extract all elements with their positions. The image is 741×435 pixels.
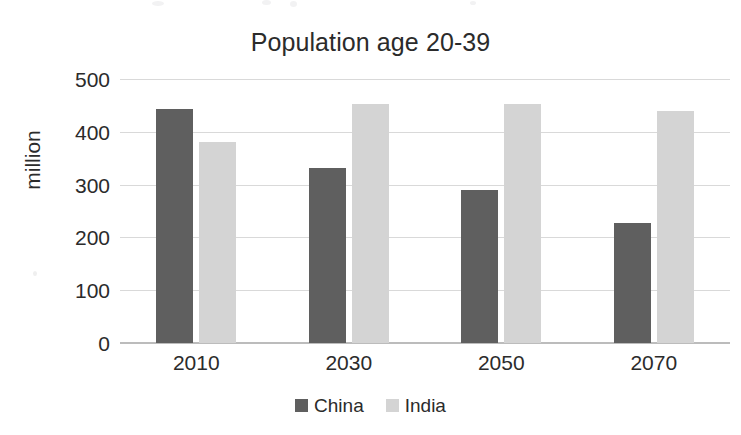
y-tick-label-200: 200 — [46, 227, 110, 248]
x-axis-tick-labels: 2010203020502070 — [120, 352, 730, 382]
legend-swatch-china-icon — [295, 399, 308, 412]
bar-india-2030 — [352, 104, 389, 343]
bar-china-2030 — [309, 168, 346, 343]
x-tick-label-2050: 2050 — [425, 352, 578, 373]
x-tick-label-2010: 2010 — [120, 352, 273, 373]
scan-artifact — [262, 0, 271, 5]
y-tick-label-400: 400 — [46, 122, 110, 143]
gridline-400 — [120, 132, 730, 133]
scan-artifact — [470, 1, 476, 5]
chart-title: Population age 20-39 — [0, 28, 741, 57]
x-tick-label-2070: 2070 — [578, 352, 731, 373]
bar-india-2050 — [504, 104, 541, 343]
y-axis-title: million — [21, 100, 45, 220]
bar-india-2010 — [199, 142, 236, 343]
y-tick-label-300: 300 — [46, 175, 110, 196]
x-tick-label-2030: 2030 — [273, 352, 426, 373]
y-tick-label-0: 0 — [46, 333, 110, 354]
plot-area — [120, 79, 730, 343]
bar-china-2050 — [461, 190, 498, 343]
legend-item-china[interactable]: China — [295, 396, 364, 415]
bar-china-2070 — [614, 223, 651, 343]
chart-legend: ChinaIndia — [0, 396, 741, 415]
gridline-500 — [120, 79, 730, 80]
scan-artifact — [290, 1, 297, 7]
bar-china-2010 — [156, 109, 193, 343]
y-tick-label-100: 100 — [46, 280, 110, 301]
scan-artifact — [33, 271, 37, 276]
scan-artifact — [152, 1, 164, 6]
y-axis-tick-labels: 0100200300400500 — [46, 79, 110, 343]
chart-page: Population age 20-39 million 01002003004… — [0, 0, 741, 435]
y-tick-label-500: 500 — [46, 69, 110, 90]
legend-label: India — [405, 396, 446, 415]
bar-india-2070 — [657, 111, 694, 343]
legend-item-india[interactable]: India — [386, 396, 446, 415]
legend-swatch-india-icon — [386, 399, 399, 412]
legend-label: China — [314, 396, 364, 415]
